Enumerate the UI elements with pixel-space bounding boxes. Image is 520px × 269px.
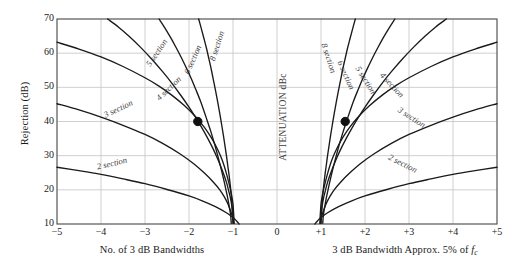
curve-left-2-section — [57, 167, 239, 224]
x-tick-label: +4 — [438, 226, 468, 237]
curve-label: 2 section — [96, 155, 128, 172]
curve-label: 3 section — [101, 98, 134, 121]
curve-label-group: 6 section — [182, 43, 204, 75]
curve-label-group: 8 section — [207, 30, 226, 62]
y-tick-label: 60 — [28, 46, 54, 57]
x-axis-title-right-text: 3 dB Bandwidth Approx. 5% of — [332, 244, 471, 255]
y-tick-label: 40 — [28, 115, 54, 126]
x-tick-label: −4 — [86, 226, 116, 237]
x-tick-label: +3 — [394, 226, 424, 237]
curve-label-group: 2 section — [96, 155, 128, 172]
curve-left-4-section — [57, 42, 234, 223]
x-tick-label: +2 — [350, 226, 380, 237]
x-axis-title-right: 3 dB Bandwidth Approx. 5% of fc — [310, 244, 500, 257]
data-point-marker — [341, 117, 349, 125]
fc-subscript: c — [474, 248, 477, 257]
data-point-marker — [194, 117, 202, 125]
y-tick-label: 10 — [28, 217, 54, 228]
curve-label: 8 section — [207, 30, 226, 62]
curve-right-2-section — [315, 167, 497, 224]
grid-layer — [57, 19, 497, 224]
y-tick-label: 70 — [28, 12, 54, 23]
x-tick-label: −2 — [174, 226, 204, 237]
curve-label: 6 section — [335, 59, 357, 91]
rejection-curves-figure: 2 section3 section4 section5 section6 se… — [0, 0, 520, 269]
curve-label-group: 3 section — [101, 98, 134, 121]
x-tick-label: +5 — [482, 226, 512, 237]
center-annotation: ATTENUATION dBc — [278, 52, 288, 182]
x-tick-label: −3 — [130, 226, 160, 237]
curve-label-group: 8 section — [319, 42, 338, 74]
x-tick-label: −1 — [218, 226, 248, 237]
curve-label: 8 section — [319, 42, 338, 74]
x-tick-label: +1 — [306, 226, 336, 237]
curve-label: 3 section — [395, 104, 427, 130]
y-tick-label: 50 — [28, 80, 54, 91]
x-axis-title-left: No. of 3 dB Bandwidths — [57, 244, 247, 255]
curve-label: 6 section — [182, 43, 204, 75]
y-tick-label: 30 — [28, 149, 54, 160]
x-tick-label: 0 — [262, 226, 292, 237]
curve-label-group: 6 section — [335, 59, 357, 91]
y-tick-label: 20 — [28, 183, 54, 194]
curve-label-group: 3 section — [395, 104, 427, 130]
